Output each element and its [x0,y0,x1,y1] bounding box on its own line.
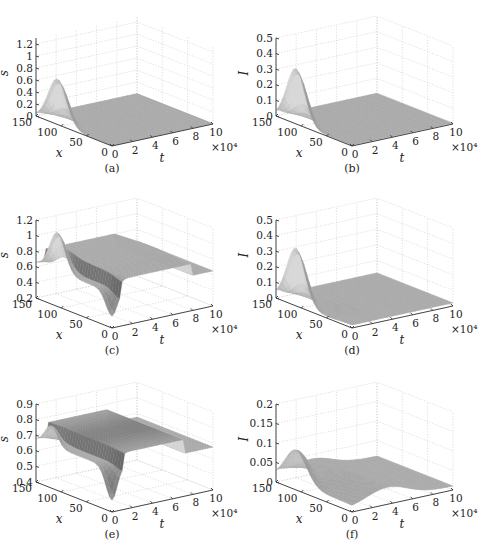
x-axis-label: x [296,512,303,526]
t-axis-label: t [399,333,404,347]
x-axis-label: x [56,146,63,160]
t-tick-label: 6 [412,317,419,329]
z-tick-label: 0.8 [16,245,33,257]
t-tick-label: 4 [152,505,159,517]
z-tick-label: 0.6 [16,444,33,456]
z-tick-label: 0.3 [256,63,273,75]
panel-c: 0.20.40.60.811.2s050100150x0246810t×10⁴(… [0,198,237,357]
t-tick-label: 2 [132,144,139,156]
t-tick-label: 2 [132,510,139,522]
z-tick-label: 0.1 [256,94,273,106]
t-tick-label: 6 [172,135,179,147]
x-tick-label: 50 [69,318,82,330]
panel-caption: (f) [346,528,359,541]
x-tick-label: 0 [101,328,108,340]
x-tick-label: 0 [341,512,348,524]
t-tick-label: 10 [449,492,462,504]
panel-d: 00.10.20.30.40.5I050100150x0246810t×10⁴(… [237,198,477,357]
x-axis-label: x [56,328,63,342]
x-axis-label: x [296,328,303,342]
panel-caption: (c) [105,344,120,357]
z-tick-label: 1.2 [16,38,33,50]
x-tick-label: 150 [252,298,272,310]
z-tick-label: 0.7 [16,429,33,441]
z-tick-label: 0.9 [16,398,33,410]
x-tick-label: 100 [37,492,57,504]
panel-caption: (d) [344,344,360,357]
z-tick-label: 0.4 [16,276,33,288]
x-tick-label: 50 [69,502,82,514]
t-tick-label: 8 [192,496,199,508]
z-tick-label: 1 [26,50,33,62]
t-tick-label: 0 [352,514,359,526]
z-tick-label: 0.8 [16,413,33,425]
x-tick-label: 50 [69,136,82,148]
panel-caption: (b) [344,162,360,175]
x-tick-label: 50 [309,502,322,514]
t-tick-label: 10 [209,492,222,504]
x-tick-label: 100 [277,308,297,320]
z-tick-label: 0.15 [250,417,273,429]
z-axis-label: I [237,70,251,76]
t-axis-label: t [159,517,164,531]
x-tick-label: 150 [12,482,32,494]
t-tick-label: 4 [152,321,159,333]
z-axis-label: I [237,436,251,442]
x-tick-label: 0 [101,146,108,158]
t-tick-label: 0 [352,148,359,160]
t-axis-label: t [399,517,404,531]
z-tick-label: 0.4 [256,47,273,59]
panel-b: 00.10.20.30.40.5I050100150x0246810t×10⁴(… [237,16,477,175]
z-tick-label: 0.5 [256,214,273,226]
t-tick-label: 2 [132,326,139,338]
t-tick-label: 4 [392,505,399,517]
t-axis-multiplier: ×10⁴ [211,141,237,153]
t-axis-multiplier: ×10⁴ [451,507,477,519]
z-tick-label: 0.6 [16,74,33,86]
t-tick-label: 4 [392,139,399,151]
t-tick-label: 2 [372,510,379,522]
t-tick-label: 8 [432,312,439,324]
z-axis-label: I [237,252,251,258]
t-axis-multiplier: ×10⁴ [451,323,477,335]
panel-caption: (e) [104,528,119,541]
x-tick-label: 100 [37,308,57,320]
x-tick-label: 50 [309,318,322,330]
figure: 00.20.40.60.811.2s050100150x0246810t×10⁴… [0,0,479,550]
z-tick-label: 0.6 [16,260,33,272]
x-tick-label: 150 [12,116,32,128]
z-tick-label: 0.1 [256,437,273,449]
x-tick-label: 50 [309,136,322,148]
t-tick-label: 10 [449,308,462,320]
t-tick-label: 4 [392,321,399,333]
t-tick-label: 2 [372,144,379,156]
x-tick-label: 0 [101,512,108,524]
panel-e: 0.40.50.60.70.80.9s050100150x0246810t×10… [0,382,237,541]
z-tick-label: 0.4 [16,86,33,98]
x-tick-label: 0 [341,146,348,158]
z-tick-label: 0.1 [256,276,273,288]
t-tick-label: 10 [209,126,222,138]
x-tick-label: 150 [252,116,272,128]
panel-f: 00.050.10.150.2I050100150x0246810t×10⁴(f… [237,382,477,541]
t-tick-label: 0 [112,514,119,526]
t-axis-label: t [159,333,164,347]
t-tick-label: 0 [112,148,119,160]
z-tick-label: 0.2 [256,78,273,90]
z-tick-label: 0.2 [16,98,33,110]
z-tick-label: 1.2 [16,214,33,226]
z-tick-label: 0.5 [256,32,273,44]
t-tick-label: 0 [112,330,119,342]
z-tick-label: 0.8 [16,62,33,74]
x-tick-label: 100 [277,126,297,138]
x-axis-label: x [296,146,303,160]
t-tick-label: 10 [209,308,222,320]
t-tick-label: 0 [352,330,359,342]
x-tick-label: 100 [277,492,297,504]
t-tick-label: 10 [449,126,462,138]
t-axis-multiplier: ×10⁴ [211,323,237,335]
t-tick-label: 8 [432,496,439,508]
t-tick-label: 6 [172,317,179,329]
t-tick-label: 6 [412,501,419,513]
x-tick-label: 100 [37,126,57,138]
